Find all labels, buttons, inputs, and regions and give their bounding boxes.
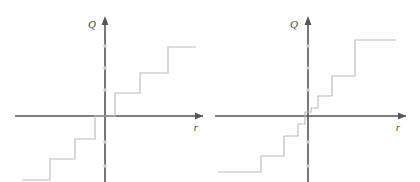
- x-axis-label: r: [194, 121, 199, 133]
- tick-dot: [306, 164, 309, 167]
- tick-dot: [306, 140, 309, 143]
- tick-dot: [306, 66, 309, 69]
- x-axis-arrowhead: [195, 113, 203, 120]
- tick-dot: [103, 66, 106, 69]
- x-axis-arrowhead: [398, 113, 406, 120]
- y-axis-arrowhead: [305, 16, 312, 25]
- y-axis-arrowhead: [102, 16, 109, 25]
- figure-root: Q r Q r: [0, 0, 420, 182]
- tick-dot: [103, 164, 106, 167]
- tick-dot: [103, 140, 106, 143]
- y-axis-label: Q: [88, 18, 96, 30]
- staircase-curve: [22, 47, 196, 180]
- tick-dot: [306, 44, 309, 47]
- y-axis-label: Q: [290, 18, 298, 30]
- tick-dot: [103, 44, 106, 47]
- axes-group-left: [15, 16, 203, 182]
- axes-group-right: [215, 16, 406, 182]
- panel-geometric-staircase: Q r: [210, 0, 420, 182]
- tick-dot: [306, 88, 309, 91]
- panel-uniform-staircase: Q r: [0, 0, 210, 182]
- staircase-curve: [218, 40, 396, 172]
- x-axis-label: r: [396, 121, 401, 133]
- tick-dot: [103, 88, 106, 91]
